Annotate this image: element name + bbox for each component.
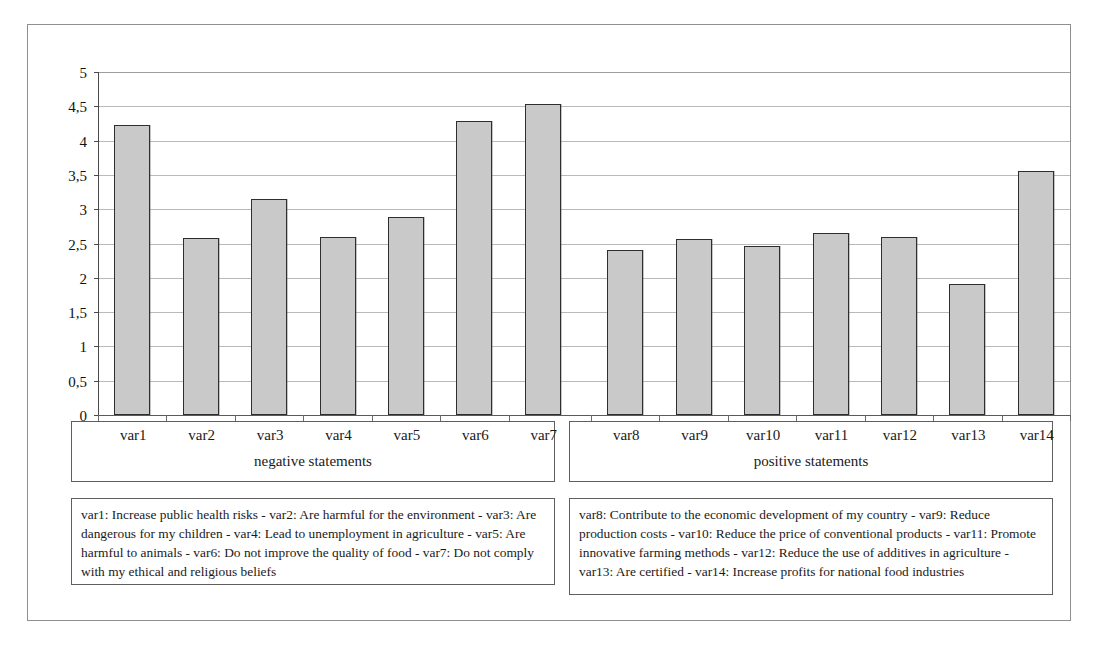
category-label-var3: var3 xyxy=(257,428,284,443)
bar-var5 xyxy=(388,217,424,415)
bar-var9 xyxy=(676,239,712,415)
category-label-var1: var1 xyxy=(120,428,147,443)
y-axis-label: 2,5 xyxy=(68,237,87,252)
y-axis-label: 3 xyxy=(80,203,88,218)
y-axis-label: 2 xyxy=(80,271,88,286)
category-label-var6: var6 xyxy=(462,428,489,443)
x-axis-tick xyxy=(1070,415,1071,421)
category-labels-positive: var8var9var10var11var12var13var14 xyxy=(570,422,1052,452)
bars-layer xyxy=(98,72,1070,415)
bar-var2 xyxy=(183,238,219,415)
category-label-var7: var7 xyxy=(530,428,557,443)
bar-var8 xyxy=(607,250,643,415)
bar-var4 xyxy=(320,237,356,415)
y-axis-label: 0,5 xyxy=(68,374,87,389)
y-axis-label: 4 xyxy=(80,134,88,149)
legend-box-negative: var1: Increase public health risks - var… xyxy=(71,498,555,585)
bar-var6 xyxy=(456,121,492,415)
category-label-var9: var9 xyxy=(681,428,708,443)
category-label-var14: var14 xyxy=(1020,428,1054,443)
category-labels-negative: var1var2var3var4var5var6var7 xyxy=(72,422,554,452)
category-label-var8: var8 xyxy=(613,428,640,443)
bar-var1 xyxy=(114,125,150,415)
bar-var10 xyxy=(744,246,780,415)
bar-var12 xyxy=(881,237,917,415)
legend-box-positive: var8: Contribute to the economic develop… xyxy=(569,498,1053,595)
category-label-var2: var2 xyxy=(188,428,215,443)
category-label-var11: var11 xyxy=(815,428,849,443)
y-axis-label: 3,5 xyxy=(68,168,87,183)
y-axis-label: 4,5 xyxy=(68,100,87,115)
group-title-positive: positive statements xyxy=(570,454,1052,469)
category-label-var4: var4 xyxy=(325,428,352,443)
category-label-var12: var12 xyxy=(883,428,917,443)
category-label-var5: var5 xyxy=(394,428,421,443)
gridline xyxy=(98,415,1070,416)
y-axis-label: 1,5 xyxy=(68,306,87,321)
bar-var11 xyxy=(813,233,849,415)
category-box-positive: var8var9var10var11var12var13var14 positi… xyxy=(569,421,1053,482)
group-title-negative: negative statements xyxy=(72,454,554,469)
bar-var13 xyxy=(949,284,985,415)
bar-var7 xyxy=(525,104,561,415)
bar-var14 xyxy=(1018,171,1054,415)
bar-var3 xyxy=(251,199,287,415)
category-label-var10: var10 xyxy=(746,428,780,443)
category-label-var13: var13 xyxy=(951,428,985,443)
figure-frame: 54,543,532,521,510,50 var1var2var3var4va… xyxy=(27,24,1071,621)
y-axis-label: 1 xyxy=(80,340,88,355)
category-box-negative: var1var2var3var4var5var6var7 negative st… xyxy=(71,421,555,482)
y-axis-label: 5 xyxy=(80,66,88,81)
